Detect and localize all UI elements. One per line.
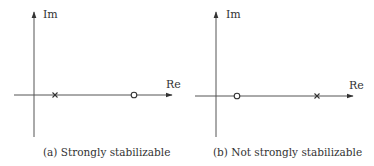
zero-marker-icon bbox=[234, 93, 240, 99]
zero-marker-icon bbox=[131, 92, 137, 98]
panel-a: Im Re (a) Strongly stabilizable bbox=[14, 8, 181, 158]
re-label-a: Re bbox=[166, 78, 181, 91]
caption-b: (b) Not strongly stabilizable bbox=[213, 146, 362, 158]
caption-a: (a) Strongly stabilizable bbox=[43, 146, 170, 158]
panel-b: Im Re (b) Not strongly stabilizable bbox=[195, 8, 364, 158]
pole-zero-figure: Im Re (a) Strongly stabilizable Im Re (b… bbox=[0, 0, 374, 166]
re-label-b: Re bbox=[349, 79, 364, 92]
im-label-b: Im bbox=[226, 8, 241, 21]
im-label-a: Im bbox=[43, 8, 58, 21]
